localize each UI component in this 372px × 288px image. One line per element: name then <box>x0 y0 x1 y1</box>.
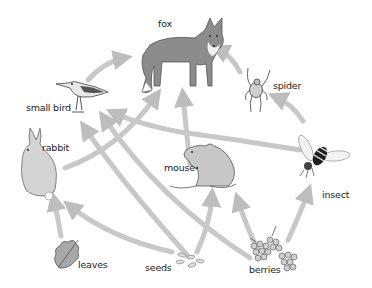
label-rabbit: rabbit <box>42 142 69 153</box>
food-web-diagram: fox spider small bird rabbit mouse insec… <box>0 0 372 288</box>
seeds-illustration <box>176 252 204 268</box>
fox-illustration <box>142 18 223 93</box>
spider-illustration <box>246 68 271 112</box>
insect-illustration <box>296 133 351 178</box>
label-fox: fox <box>158 18 172 29</box>
label-insect: insect <box>322 189 349 200</box>
label-leaves: leaves <box>78 259 108 270</box>
rabbit-illustration <box>22 128 57 200</box>
label-spider: spider <box>273 80 301 91</box>
label-small-bird: small bird <box>26 102 71 113</box>
label-berries: berries <box>249 264 281 275</box>
label-seeds: seeds <box>145 262 172 273</box>
label-mouse: mouse <box>164 162 195 173</box>
leaves-illustration <box>55 240 79 268</box>
